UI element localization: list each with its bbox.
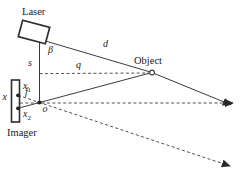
s-baseline-label: s (28, 57, 32, 68)
laser-label: Laser (22, 6, 46, 17)
beta-angle-label: β (47, 44, 53, 55)
laser-box (18, 20, 49, 44)
beam-continuation-arrow (154, 73, 232, 105)
triangulation-diagram: Laser Object Imager β d s q f o x x1 x2 (0, 0, 245, 184)
object-point-circle (150, 70, 155, 75)
imaging-ray-x1-arrow (18, 95, 230, 166)
x2-point-label: x2 (22, 108, 31, 122)
d-distance-label: d (103, 38, 109, 49)
o-origin-label: o (43, 103, 48, 114)
range-q-line (40, 73, 150, 74)
imager-label: Imager (7, 127, 37, 138)
pinhole-o-dot (37, 100, 41, 104)
q-range-label: q (76, 59, 81, 70)
object-label: Object (134, 55, 162, 66)
image-point-x1-dot (16, 93, 20, 97)
x-axis-label: x (2, 91, 8, 102)
imager-box (12, 80, 20, 122)
image-point-x2-dot (16, 106, 20, 110)
x1-point-label: x1 (22, 80, 31, 94)
figure-canvas: Laser Object Imager β d s q f o x x1 x2 (0, 0, 245, 184)
